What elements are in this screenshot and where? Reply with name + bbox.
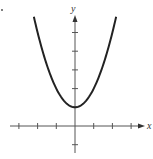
x-axis-label: x [146,120,152,131]
bullet-dot [1,9,3,11]
y-axis-arrow-icon [73,15,78,22]
x-axis-arrow-icon [138,124,145,129]
parabola-chart: x y [0,0,153,159]
y-axis-label: y [70,3,76,14]
